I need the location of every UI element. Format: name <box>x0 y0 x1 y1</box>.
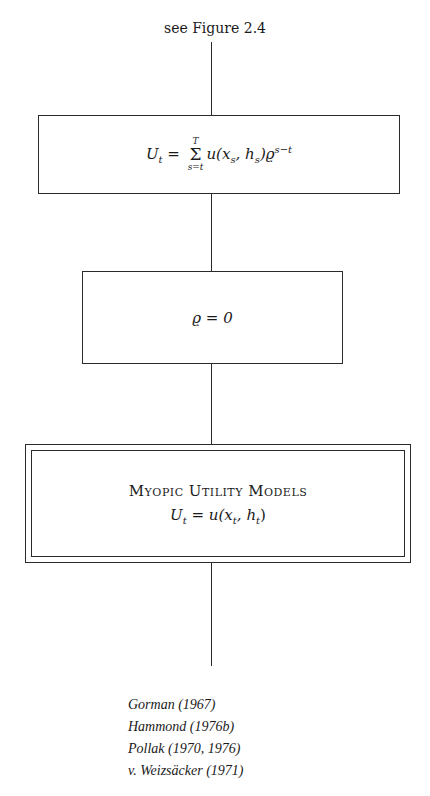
connector-line-4 <box>211 563 213 666</box>
box-discounted-utility: Ut = TΣs=tu(xs, hs)ϱs−t <box>38 115 400 194</box>
reference-item: v. Weizsäcker (1971) <box>128 760 243 782</box>
top-caption: see Figure 2.4 <box>0 20 430 36</box>
reference-item: Pollak (1970, 1976) <box>128 738 243 760</box>
summation: TΣs=t <box>188 137 204 172</box>
box-rho-zero: ϱ = 0 <box>82 271 343 364</box>
formula-rho-zero: ϱ = 0 <box>192 309 232 327</box>
connector-line-1 <box>211 42 213 115</box>
formula-myopic: Ut = u(xt, ht) <box>170 506 266 526</box>
box-myopic-utility-models: Myopic Utility Models Ut = u(xt, ht) <box>31 450 405 557</box>
formula-discounted-utility: Ut = TΣs=tu(xs, hs)ϱs−t <box>146 137 292 172</box>
connector-line-2 <box>211 194 213 271</box>
connector-line-3 <box>211 364 213 444</box>
reference-item: Gorman (1967) <box>128 694 243 716</box>
reference-list: Gorman (1967) Hammond (1976b) Pollak (19… <box>128 694 243 782</box>
box-title: Myopic Utility Models <box>129 482 307 500</box>
reference-item: Hammond (1976b) <box>128 716 243 738</box>
